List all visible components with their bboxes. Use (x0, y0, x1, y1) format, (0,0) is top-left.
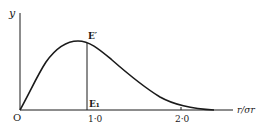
foot-label: E₁ (89, 99, 100, 109)
diagram-canvas: y O E′ E₁ 1·0 2·0 r/σr (0, 0, 260, 127)
origin-label: O (13, 112, 21, 123)
tick-label-2: 2·0 (175, 114, 190, 124)
peak-label: E′ (88, 31, 98, 41)
x-axis-label: r/σr (237, 105, 255, 115)
distribution-curve (20, 41, 214, 110)
tick-label-1: 1·0 (88, 114, 103, 124)
y-axis-label: y (8, 7, 16, 20)
